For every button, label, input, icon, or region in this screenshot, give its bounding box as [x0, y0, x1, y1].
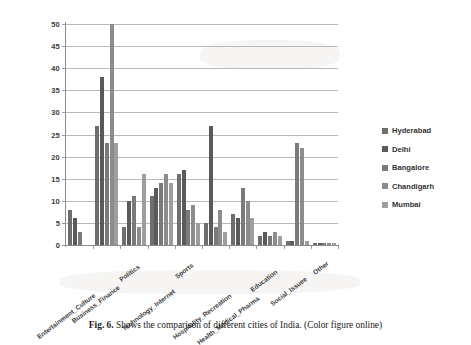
- bar: [110, 24, 114, 245]
- y-axis-tick-labels: 50454035302520151050: [30, 18, 60, 250]
- legend-label: Mumbai: [392, 200, 421, 209]
- x-axis-tick: [256, 245, 257, 249]
- bar: [169, 183, 173, 245]
- x-axis-tick-labels: Entertainment_CultureBusiness_FinancePol…: [66, 247, 338, 307]
- legend-item-delhi[interactable]: Delhi: [382, 145, 470, 154]
- x-axis-tick: [229, 245, 230, 249]
- bar: [159, 183, 163, 245]
- bar: [186, 210, 190, 245]
- bar: [258, 236, 262, 245]
- bar: [286, 241, 290, 245]
- x-axis-tick: [202, 245, 203, 249]
- bar: [105, 143, 109, 245]
- bar: [68, 210, 72, 245]
- y-axis-tick: [62, 201, 66, 202]
- x-axis-label-9: Other: [312, 260, 330, 276]
- bar: [300, 148, 304, 245]
- bar: [164, 174, 168, 245]
- bar-group: [120, 24, 147, 245]
- bar-group: [93, 24, 120, 245]
- y-axis-tick: [62, 179, 66, 180]
- legend-label: Hyderabad: [392, 126, 431, 135]
- x-axis-label-0: Entertainment_Culture: [35, 292, 96, 340]
- bar: [218, 210, 222, 245]
- bar: [142, 174, 146, 245]
- x-axis-tick: [338, 245, 339, 249]
- legend-swatch-icon: [382, 165, 388, 171]
- legend-swatch-icon: [382, 146, 388, 152]
- bar: [273, 232, 277, 245]
- y-axis-tick: [62, 68, 66, 69]
- figure-container: 50454035302520151050 Entertainment_Cultu…: [0, 0, 471, 345]
- bar-group: [148, 24, 175, 245]
- y-axis-label-30: 30: [51, 108, 60, 117]
- x-axis-label-8: Social_Issuee: [269, 275, 308, 307]
- y-axis-label-45: 45: [51, 42, 60, 51]
- legend-swatch-icon: [382, 202, 388, 208]
- legend-swatch-icon: [382, 183, 388, 189]
- caption-body: Shows the comparison of different cities…: [116, 320, 382, 330]
- legend-label: Chandigarh: [392, 182, 434, 191]
- bar-group: [229, 24, 256, 245]
- y-axis-label-10: 10: [51, 196, 60, 205]
- bar: [209, 126, 213, 245]
- bar-group: [66, 24, 93, 245]
- bar: [182, 170, 186, 245]
- y-axis-label-25: 25: [51, 130, 60, 139]
- legend-label: Bangalore: [392, 163, 429, 172]
- y-axis-tick: [62, 46, 66, 47]
- y-axis-label-15: 15: [51, 174, 60, 183]
- bar: [137, 227, 141, 245]
- legend-label: Delhi: [392, 145, 411, 154]
- bar: [114, 143, 118, 245]
- y-axis-tick: [62, 157, 66, 158]
- chart-legend: HyderabadDelhiBangaloreChandigarhMumbai: [382, 126, 470, 219]
- legend-item-mumbai[interactable]: Mumbai: [382, 200, 470, 209]
- bar: [95, 126, 99, 245]
- y-axis-tick: [62, 135, 66, 136]
- legend-swatch-icon: [382, 128, 388, 134]
- legend-item-hyderabad[interactable]: Hyderabad: [382, 126, 470, 135]
- legend-item-bangalore[interactable]: Bangalore: [382, 163, 470, 172]
- bar: [322, 243, 326, 245]
- bar: [150, 196, 154, 245]
- bar-group: [202, 24, 229, 245]
- bar: [318, 243, 322, 245]
- x-axis-label-4: Sports: [174, 262, 195, 280]
- bar: [204, 223, 208, 245]
- bar: [278, 236, 282, 245]
- bar: [231, 214, 235, 245]
- y-axis-label-50: 50: [51, 20, 60, 29]
- bar-group: [311, 24, 338, 245]
- bar: [214, 227, 218, 245]
- bar: [122, 227, 126, 245]
- bar: [332, 243, 336, 245]
- bar: [305, 241, 309, 245]
- x-axis-label-7: Education: [249, 268, 279, 293]
- bar: [191, 205, 195, 245]
- bar-group: [175, 24, 202, 245]
- bar: [236, 218, 240, 245]
- x-axis-tick: [175, 245, 176, 249]
- bar: [196, 223, 200, 245]
- bar: [246, 201, 250, 245]
- x-axis-tick: [284, 245, 285, 249]
- bar: [78, 232, 82, 245]
- bar: [250, 218, 254, 245]
- y-axis-tick: [62, 24, 66, 25]
- legend-item-chandigarh[interactable]: Chandigarh: [382, 182, 470, 191]
- bar: [327, 243, 331, 245]
- bar: [295, 143, 299, 245]
- bar: [290, 241, 294, 245]
- bar-groups: [66, 24, 338, 245]
- bar: [263, 232, 267, 245]
- x-axis-label-5: Hospitality_Recreation: [171, 292, 232, 341]
- bar: [241, 188, 245, 245]
- y-axis-label-20: 20: [51, 152, 60, 161]
- y-axis-label-35: 35: [51, 86, 60, 95]
- bar: [223, 232, 227, 245]
- y-axis-label-5: 5: [56, 218, 60, 227]
- bar-group: [284, 24, 311, 245]
- bar: [154, 188, 158, 245]
- x-axis-tick: [120, 245, 121, 249]
